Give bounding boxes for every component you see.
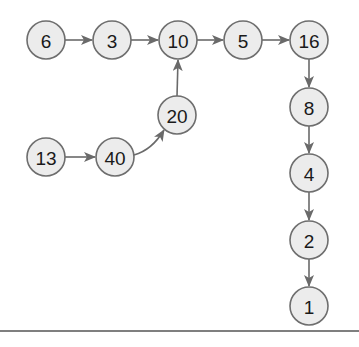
node-10: 10 bbox=[159, 21, 197, 59]
node-40: 40 bbox=[96, 138, 134, 176]
node-8: 8 bbox=[290, 88, 328, 126]
node-label: 2 bbox=[304, 231, 315, 252]
node-20: 20 bbox=[158, 96, 196, 134]
node-6: 6 bbox=[27, 21, 65, 59]
node-label: 3 bbox=[107, 31, 118, 52]
node-label: 13 bbox=[35, 148, 56, 169]
sequence-graph: 6 3 10 5 16 20 13 40 bbox=[0, 0, 359, 347]
node-label: 40 bbox=[104, 148, 125, 169]
node-1: 1 bbox=[290, 287, 328, 325]
node-16: 16 bbox=[290, 21, 328, 59]
node-label: 20 bbox=[166, 106, 187, 127]
node-label: 4 bbox=[304, 164, 315, 185]
edge-20-to-10 bbox=[177, 60, 178, 96]
node-label: 5 bbox=[238, 31, 249, 52]
edge-40-to-20 bbox=[134, 130, 164, 155]
node-5: 5 bbox=[224, 21, 262, 59]
node-label: 8 bbox=[304, 98, 315, 119]
node-3: 3 bbox=[93, 21, 131, 59]
node-label: 6 bbox=[41, 31, 52, 52]
node-13: 13 bbox=[27, 138, 65, 176]
node-label: 16 bbox=[298, 31, 319, 52]
node-label: 10 bbox=[167, 31, 188, 52]
node-label: 1 bbox=[304, 297, 315, 318]
node-2: 2 bbox=[290, 221, 328, 259]
node-4: 4 bbox=[290, 154, 328, 192]
